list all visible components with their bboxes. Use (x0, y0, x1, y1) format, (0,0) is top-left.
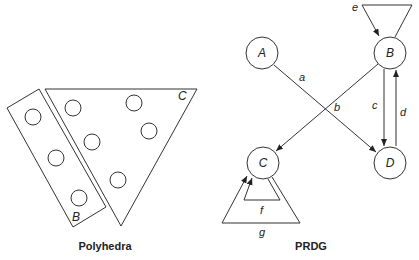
point-c2 (126, 95, 142, 111)
polyhedra-caption: Polyhedra (78, 240, 132, 252)
node-b-label: B (386, 46, 394, 60)
edge-a-label: a (299, 71, 305, 83)
edge-a (274, 65, 376, 152)
node-c-label: C (259, 156, 268, 170)
edge-e (362, 5, 412, 37)
point-b1 (25, 109, 41, 125)
prdg-caption: PRDG (295, 240, 327, 252)
point-b3 (71, 190, 87, 206)
polyhedron-b-label: B (72, 210, 80, 224)
point-b2 (48, 150, 64, 166)
node-d-label: D (386, 156, 395, 170)
point-c1 (65, 100, 81, 116)
diagram-canvas: C B Polyhedra A B C D a b c d e f g PRDG (0, 0, 419, 260)
edge-b-label: b (334, 101, 340, 113)
polyhedron-c (45, 89, 197, 226)
edge-c-label: c (372, 99, 378, 111)
edge-e-label: e (352, 1, 358, 13)
point-c4 (141, 123, 157, 139)
point-c3 (84, 134, 100, 150)
node-a-label: A (257, 46, 266, 60)
edge-b (276, 64, 378, 151)
edge-g-label: g (259, 226, 266, 238)
point-c5 (110, 172, 126, 188)
polyhedron-c-label: C (178, 89, 187, 103)
prdg-diagram (222, 5, 412, 223)
edge-f-label: f (260, 204, 264, 216)
edge-d-label: d (400, 106, 407, 118)
polyhedra-diagram (7, 89, 197, 227)
